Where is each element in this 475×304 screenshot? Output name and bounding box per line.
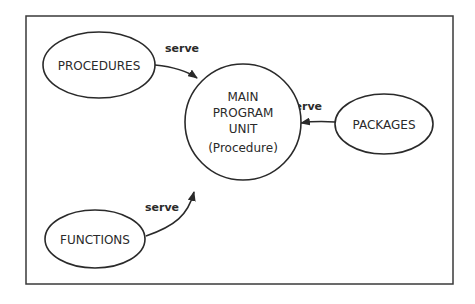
node-packages: PACKAGES [335,94,433,154]
node-main-program-unit: MAIN PROGRAM UNIT (Procedure) [185,64,301,180]
edge-label-functions: serve [145,201,179,214]
edge-label-procedures: serve [165,42,199,55]
packages-label: PACKAGES [353,118,416,132]
node-procedures: PROCEDURES [43,32,155,98]
main-line-1: MAIN [227,90,258,104]
node-functions: FUNCTIONS [45,210,145,268]
functions-label: FUNCTIONS [60,233,130,247]
edge-packages-to-main [301,122,335,123]
edge-procedures-to-main [155,65,197,78]
main-line-2: PROGRAM [213,106,274,120]
main-line-4: (Procedure) [208,141,278,155]
main-line-3: UNIT [229,122,258,136]
edge-functions-to-main [146,192,194,236]
procedures-label: PROCEDURES [58,59,141,73]
diagram-canvas: serve serve serve MAIN PROGRAM UNIT (Pro… [0,0,475,304]
